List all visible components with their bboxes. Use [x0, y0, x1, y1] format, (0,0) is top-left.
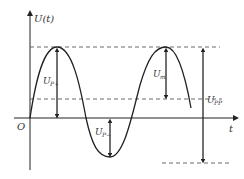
svg-text:m: m — [160, 73, 166, 80]
x-axis-label: t — [229, 123, 234, 134]
origin-label: O — [17, 121, 25, 132]
sine-waveform — [30, 47, 191, 157]
svg-text:P+: P+ — [49, 80, 59, 87]
amplitude-label: U m — [153, 69, 166, 80]
svg-text:PP: PP — [213, 99, 223, 106]
peak-to-peak-label: U PP — [207, 95, 223, 106]
waveform-diagram: U(t) t O U P+ U P− U m U PP — [0, 0, 244, 179]
y-axis-label: U(t) — [34, 13, 54, 24]
negative-peak-label: U P− — [95, 127, 111, 138]
svg-text:P−: P− — [101, 131, 111, 138]
